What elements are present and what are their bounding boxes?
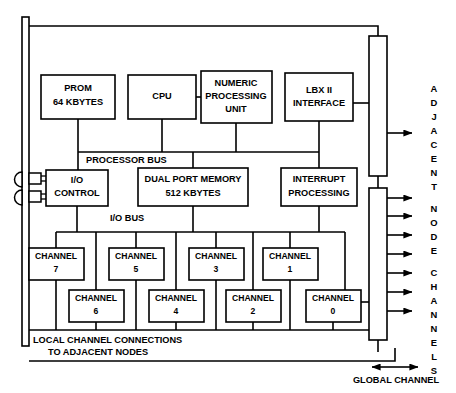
block-interrupt-line-1: PROCESSING (288, 188, 349, 198)
channel-0-line-1: 0 (331, 306, 336, 316)
block-dpm-line-0: DUAL PORT MEMORY (145, 174, 242, 184)
adjacent-node-interface-bar (369, 36, 387, 176)
left-backplane-bar (22, 17, 29, 346)
cable-loop-upper-icon (15, 172, 23, 187)
side-letter-e1: E (431, 153, 437, 164)
block-io-control-line-0: I/O (71, 175, 83, 185)
block-npu-line-2: UNIT (225, 104, 247, 114)
io-bus-label: I/O BUS (110, 213, 144, 223)
channel-2-line-0: CHANNEL (232, 293, 274, 303)
side-letter-h: H (431, 281, 438, 292)
local-connections-note-line-2: TO ADJACENT NODES (48, 347, 148, 357)
channel-6-line-1: 6 (94, 306, 99, 316)
block-prom-line-0: PROM (64, 83, 92, 93)
side-letter-d2: D (431, 231, 438, 242)
cable-connector-upper (29, 173, 41, 184)
block-npu-line-0: NUMERIC (215, 78, 258, 88)
channel-7-line-0: CHANNEL (35, 251, 77, 261)
block-interrupt-line-0: INTERRUPT (293, 174, 346, 184)
side-letter-c2: C (431, 267, 438, 278)
channel-3-line-1: 3 (214, 264, 219, 274)
side-letter-a3: A (431, 295, 438, 306)
block-prom-line-1: 64 KBYTES (53, 97, 103, 107)
channel-6-line-0: CHANNEL (75, 293, 117, 303)
block-lbx-line-0: LBX II (306, 85, 332, 95)
side-letter-s: S (431, 365, 437, 376)
side-letter-e3: E (431, 337, 437, 348)
local-connections-note-line-1: LOCAL CHANNEL CONNECTIONS (33, 335, 182, 345)
block-cpu-line-0: CPU (152, 91, 172, 101)
side-letter-c1: C (431, 139, 438, 150)
block-lbx-line-1: INTERFACE (293, 98, 345, 108)
channel-1-line-1: 1 (288, 264, 293, 274)
channel-1-line-0: CHANNEL (269, 251, 311, 261)
block-io-control-line-1: CONTROL (54, 188, 100, 198)
side-letter-o: O (430, 217, 437, 228)
side-letter-a2: A (431, 125, 438, 136)
diagram-canvas: PROM 64 KBYTES CPU NUMERIC PROCESSING UN… (0, 0, 456, 393)
side-letter-t: T (431, 181, 437, 192)
side-letter-d1: D (431, 97, 438, 108)
global-channel-label: GLOBAL CHANNEL (353, 375, 439, 385)
side-letter-a1: A (431, 83, 438, 94)
side-letter-n3: N (431, 309, 438, 320)
side-letter-n1: N (431, 167, 438, 178)
block-dpm-line-1: 512 KBYTES (165, 188, 220, 198)
channel-3-line-0: CHANNEL (195, 251, 237, 261)
block-lbx-ii-interface[interactable] (285, 73, 353, 121)
channel-4-line-0: CHANNEL (155, 293, 197, 303)
channel-4-line-1: 4 (174, 306, 179, 316)
side-letter-j: J (431, 111, 436, 122)
node-channels-bar (369, 188, 387, 340)
block-npu-line-1: PROCESSING (205, 91, 266, 101)
cable-connector-lower (29, 191, 41, 202)
cable-loop-lower-icon (15, 190, 23, 205)
side-letter-l: L (431, 351, 437, 362)
side-letter-e2: E (431, 245, 437, 256)
channel-0-line-0: CHANNEL (312, 293, 354, 303)
channel-5-line-0: CHANNEL (115, 251, 157, 261)
top-bus-wire (29, 26, 378, 36)
side-letter-n4: N (431, 323, 438, 334)
channel-2-line-1: 2 (251, 306, 256, 316)
block-diagram-root: PROM 64 KBYTES CPU NUMERIC PROCESSING UN… (0, 0, 456, 393)
side-letter-n2: N (431, 203, 438, 214)
channel-7-line-1: 7 (54, 264, 59, 274)
channel-5-line-1: 5 (134, 264, 139, 274)
processor-bus-label: PROCESSOR BUS (86, 155, 167, 165)
